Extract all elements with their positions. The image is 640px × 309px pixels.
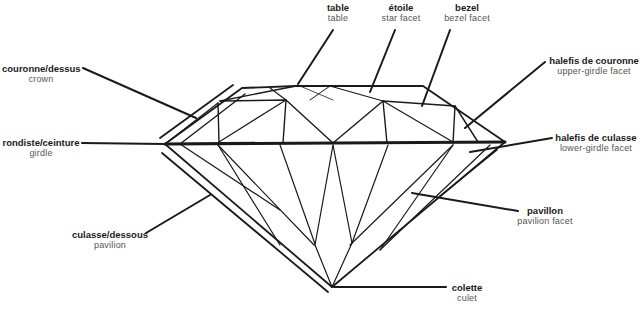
label-star-fr: étoile (366, 2, 436, 13)
label-crown: couronne/dessus crown (2, 63, 80, 85)
bezel-mid-right (383, 101, 387, 143)
leader-upper-girdle (465, 62, 545, 128)
label-pavilion-en: pavilion (70, 240, 150, 251)
label-upper-girdle-fr: halefis de couronne (548, 55, 640, 66)
pavilion-main-c (315, 145, 333, 245)
label-bezel: bezel bezel facet (432, 2, 502, 24)
leader-lower-girdle (470, 138, 552, 152)
table-star-r (330, 86, 383, 101)
bezel-left (218, 103, 219, 143)
label-pavilion-fr: culasse/dessous (70, 229, 150, 240)
label-bezel-en: bezel facet (432, 13, 502, 24)
label-pavilion-facet: pavillon pavilion facet (505, 205, 585, 227)
label-bezel-fr: bezel (432, 2, 502, 13)
label-lower-girdle: halefis de culasse lower-girdle facet (552, 132, 640, 154)
label-girdle-en: girdle (2, 148, 80, 159)
label-star-en: star facet (366, 13, 436, 24)
bezel-mid-left (283, 100, 286, 143)
culet-r (332, 243, 352, 287)
pavilion-main-l (280, 145, 315, 244)
pavilion-left (165, 144, 332, 287)
label-table-en: table (318, 13, 358, 24)
label-pavilion: culasse/dessous pavilion (70, 229, 150, 251)
label-culet-fr: colette (442, 282, 492, 293)
star-facet-lines (220, 100, 478, 143)
label-girdle-fr: rondiste/ceinture (2, 137, 80, 148)
label-table: table table (318, 2, 358, 24)
label-culet-en: culet (442, 293, 492, 304)
leader-girdle (82, 143, 165, 144)
crown-inner-line (180, 94, 245, 144)
pavilion-main-r (352, 145, 388, 243)
bezel-right (453, 106, 455, 143)
label-star: étoile star facet (366, 2, 436, 24)
leader-star (370, 30, 395, 92)
table-top (300, 86, 333, 100)
pavilion-main-c2 (333, 145, 352, 243)
label-upper-girdle-en: upper-girdle facet (548, 66, 640, 77)
label-lower-girdle-en: lower-girdle facet (552, 143, 640, 154)
label-pavilion-facet-fr: pavillon (505, 205, 585, 216)
diamond-diagram (0, 0, 640, 309)
label-girdle: rondiste/ceinture girdle (2, 137, 80, 159)
girdle-line (165, 142, 505, 144)
upper-girdle-r (383, 101, 453, 142)
label-table-fr: table (318, 2, 358, 13)
label-pavilion-facet-en: pavilion facet (505, 216, 585, 227)
leader-pavilion (146, 195, 210, 233)
table-star (310, 86, 330, 100)
label-crown-fr: couronne/dessus (2, 63, 80, 74)
leader-table (298, 30, 333, 84)
upper-girdle-far-l (165, 103, 218, 144)
leader-crown (83, 68, 196, 118)
label-upper-girdle: halefis de couronne upper-girdle facet (548, 55, 640, 77)
label-lower-girdle-fr: halefis de culasse (552, 132, 640, 143)
label-crown-en: crown (2, 74, 80, 85)
leader-pavilion-facet (412, 193, 518, 211)
label-culet: colette culet (442, 282, 492, 304)
pavilion-right-offset (440, 150, 497, 196)
lower-girdle-l2 (218, 145, 280, 245)
